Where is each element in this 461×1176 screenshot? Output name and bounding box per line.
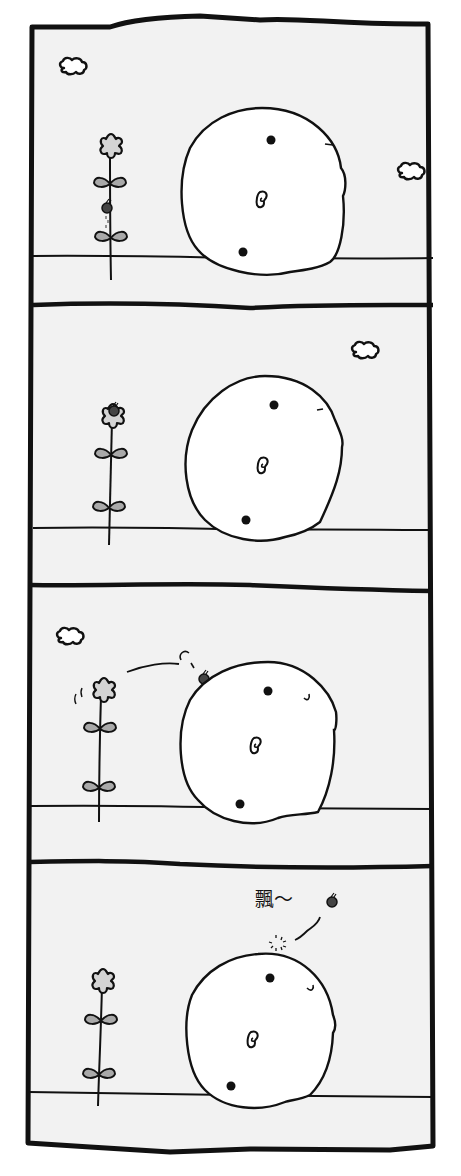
round-creature — [182, 108, 346, 275]
eye-icon — [242, 516, 251, 525]
eye-icon — [264, 687, 273, 696]
round-creature — [181, 662, 337, 823]
cloud — [352, 342, 378, 358]
eye-icon — [236, 800, 245, 809]
eye-icon — [239, 248, 248, 257]
cloud — [60, 58, 86, 74]
eye-icon — [270, 401, 279, 410]
cloud — [57, 628, 83, 644]
eye-icon — [266, 974, 275, 983]
eye-icon — [267, 136, 276, 145]
comic-strip: 飄～ — [0, 0, 461, 1176]
cloud — [398, 163, 424, 179]
round-creature — [186, 954, 335, 1108]
sound-effect-text: 飄～ — [255, 888, 293, 910]
eye-icon — [227, 1082, 236, 1091]
